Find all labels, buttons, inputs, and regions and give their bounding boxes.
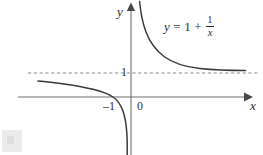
equation-fraction: 1 x [206,14,214,38]
function-graph-figure: y x 1 –1 0 y = 1 + 1 x [0,0,263,155]
fraction-denominator: x [207,27,214,39]
curve-left-branch [38,81,127,155]
fraction-numerator: 1 [206,14,213,26]
equation-constant-term: 1 [184,19,191,35]
y-axis-label: y [117,5,123,18]
equation-annotation: y = 1 + 1 x [164,15,214,39]
y-axis-arrow-icon [127,3,135,12]
x-tick-label-negative-1: –1 [103,100,115,112]
equation-equals-sign: = [173,19,180,35]
origin-label: 0 [137,100,143,112]
equation-lhs: y [164,19,170,35]
corner-scan-artifact-mark [7,136,14,144]
equation-plus-sign: + [194,19,201,35]
graph-canvas [0,0,263,155]
x-axis-label: x [250,99,256,112]
y-tick-label-1: 1 [121,66,127,78]
corner-scan-artifact [2,130,22,152]
